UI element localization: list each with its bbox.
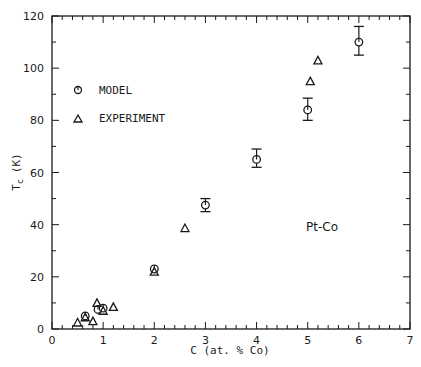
model-point xyxy=(200,199,210,212)
model-point xyxy=(303,98,313,120)
y-tick-label: 80 xyxy=(30,114,44,127)
x-axis-title: C (at. % Co) xyxy=(190,344,269,357)
x-tick-label: 2 xyxy=(151,334,158,347)
experiment-point xyxy=(314,56,322,64)
y-title-sub: c xyxy=(16,179,25,184)
legend-model-label: MODEL xyxy=(99,84,132,97)
model-point xyxy=(252,149,262,167)
y-tick-label: 40 xyxy=(30,219,44,232)
x-tick-label: 6 xyxy=(355,334,362,347)
x-tick-label: 0 xyxy=(49,334,56,347)
experiment-point xyxy=(89,317,97,325)
model-point xyxy=(354,26,364,55)
y-tick-label: 100 xyxy=(23,62,44,75)
x-tick-label: 7 xyxy=(407,334,414,347)
x-tick-label: 5 xyxy=(304,334,311,347)
y-title-unit: (K) xyxy=(10,153,23,173)
alloy-annotation: Pt-Co xyxy=(306,220,338,234)
y-tick-label: 120 xyxy=(23,10,44,23)
x-tick-label: 1 xyxy=(100,334,107,347)
experiment-point xyxy=(109,303,117,311)
legend-experiment-label: EXPERIMENT xyxy=(99,112,166,125)
y-tick-label: 0 xyxy=(37,323,44,336)
legend-triangle-icon xyxy=(74,115,82,122)
y-axis-title: Tc(K) xyxy=(10,153,25,190)
legend-circle-icon xyxy=(75,87,82,94)
plot-frame xyxy=(52,16,410,329)
experiment-point xyxy=(181,224,189,232)
experiment-point xyxy=(306,77,314,85)
model-series xyxy=(81,26,363,319)
svg-text:Tc(K): Tc(K) xyxy=(10,153,25,190)
y-tick-label: 60 xyxy=(30,167,44,180)
y-tick-label: 20 xyxy=(30,271,44,284)
x-axis-ticks: 01234567 xyxy=(49,16,414,347)
legend: MODEL EXPERIMENT xyxy=(74,84,166,125)
y-axis-ticks: 020406080100120 xyxy=(23,10,410,336)
plot-border xyxy=(52,16,410,329)
chart: 01234567 020406080100120 MODEL EXPERIMEN… xyxy=(0,0,421,367)
experiment-point xyxy=(74,318,82,326)
